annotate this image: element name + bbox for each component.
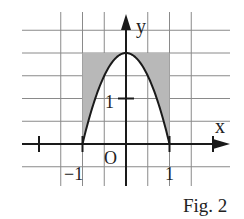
x-tick-label-1: 1	[165, 164, 174, 184]
y-axis-arrow-icon	[121, 14, 131, 30]
origin-label: O	[104, 148, 117, 168]
x-tick-label-neg-1: −1	[64, 164, 83, 184]
y-tick-label-1: 1	[105, 92, 114, 112]
x-axis-label: x	[215, 115, 225, 137]
axes	[22, 14, 230, 186]
figure-canvas: y x O −1 1 1 Fig. 2	[0, 0, 244, 219]
y-axis-label: y	[136, 15, 146, 38]
x-axis-arrow-icon	[213, 139, 230, 149]
figure-caption: Fig. 2	[183, 195, 227, 216]
